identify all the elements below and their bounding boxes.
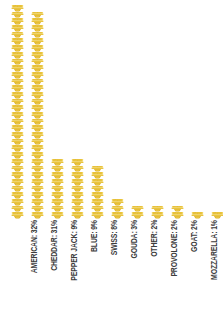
cheese-wheel-icon <box>11 206 24 213</box>
cheese-wheel-icon <box>91 199 104 206</box>
category-label-text: MOZZARELLA: 1% <box>204 220 223 280</box>
cheese-wheel-icon <box>11 152 24 159</box>
cheese-wheel-icon <box>171 212 184 219</box>
cheese-wheel-icon <box>91 212 104 219</box>
cheese-wheel-icon <box>31 12 44 19</box>
cheese-wheel-icon <box>31 59 44 66</box>
cheese-wheel-icon <box>111 212 124 219</box>
cheese-wheel-icon <box>51 199 64 206</box>
cheese-wheel-icon <box>211 212 224 219</box>
cheese-wheel-icon <box>171 206 184 213</box>
category-label-text: AMERICAN: 32% <box>24 220 44 273</box>
cheese-wheel-icon <box>11 18 24 25</box>
cheese-wheel-icon <box>11 166 24 173</box>
cheese-wheel-icon <box>11 159 24 166</box>
pictogram-column <box>167 206 187 219</box>
cheese-wheel-icon <box>31 166 44 173</box>
category-label-text: GOUDA: 3% <box>124 220 144 259</box>
pictogram-column <box>147 206 167 219</box>
pictogram-column <box>27 12 47 219</box>
cheese-wheel-icon <box>11 105 24 112</box>
category-label-pepper-jack: PEPPER JACK: 9% <box>64 219 84 320</box>
category-label-gouda: GOUDA: 3% <box>124 219 144 320</box>
cheese-wheel-icon <box>31 45 44 52</box>
cheese-wheel-icon <box>31 72 44 79</box>
cheese-wheel-icon <box>91 192 104 199</box>
cheese-wheel-icon <box>71 186 84 193</box>
cheese-wheel-icon <box>11 38 24 45</box>
cheese-wheel-icon <box>31 206 44 213</box>
category-label-american: AMERICAN: 32% <box>24 219 44 320</box>
pictogram-column <box>67 159 87 219</box>
cheese-wheel-icon <box>91 179 104 186</box>
pictogram-column <box>127 206 147 219</box>
cheese-wheel-icon <box>191 212 204 219</box>
cheese-wheel-icon <box>11 132 24 139</box>
cheese-wheel-icon <box>11 59 24 66</box>
cheese-wheel-icon <box>31 92 44 99</box>
category-axis-labels: AMERICAN: 32%CHEDDAR: 31%PEPPER JACK: 9%… <box>0 219 223 320</box>
cheese-wheel-icon <box>131 212 144 219</box>
cheese-wheel-icon <box>111 199 124 206</box>
cheese-wheel-icon <box>51 212 64 219</box>
cheese-wheel-icon <box>31 212 44 219</box>
cheese-wheel-icon <box>31 152 44 159</box>
cheese-wheel-icon <box>31 52 44 59</box>
cheese-wheel-icon <box>71 212 84 219</box>
cheese-wheel-icon <box>151 212 164 219</box>
cheese-wheel-icon <box>51 159 64 166</box>
cheese-wheel-icon <box>11 192 24 199</box>
pictogram-column <box>187 212 207 219</box>
category-label-text: CHEDDAR: 31% <box>44 220 64 271</box>
category-label-mozzarella: MOZZARELLA: 1% <box>204 219 223 320</box>
pictogram-column <box>47 159 67 219</box>
cheese-wheel-icon <box>11 12 24 19</box>
cheese-wheel-icon <box>51 172 64 179</box>
cheese-wheel-icon <box>11 125 24 132</box>
cheese-wheel-icon <box>51 166 64 173</box>
cheese-wheel-icon <box>31 112 44 119</box>
cheese-wheel-icon <box>131 206 144 213</box>
cheese-wheel-icon <box>31 199 44 206</box>
category-label-cheddar: CHEDDAR: 31% <box>44 219 64 320</box>
cheese-wheel-icon <box>11 52 24 59</box>
cheese-wheel-icon <box>11 212 24 219</box>
category-label-blue: BLUE: 9% <box>84 219 104 320</box>
cheese-wheel-icon <box>31 125 44 132</box>
cheese-wheel-icon <box>31 179 44 186</box>
cheese-wheel-icon <box>11 5 24 12</box>
cheese-wheel-icon <box>71 179 84 186</box>
pictogram-chart: AMERICAN: 32%CHEDDAR: 31%PEPPER JACK: 9%… <box>0 0 223 320</box>
cheese-wheel-icon <box>31 99 44 106</box>
cheese-wheel-icon <box>31 79 44 86</box>
cheese-wheel-icon <box>71 172 84 179</box>
category-label-goat: GOAT: 2% <box>184 219 204 320</box>
cheese-wheel-icon <box>31 119 44 126</box>
cheese-wheel-icon <box>31 65 44 72</box>
cheese-wheel-icon <box>31 172 44 179</box>
cheese-wheel-icon <box>31 25 44 32</box>
cheese-wheel-icon <box>91 186 104 193</box>
category-label-text: GOAT: 2% <box>184 220 204 252</box>
cheese-wheel-icon <box>91 166 104 173</box>
cheese-wheel-icon <box>31 18 44 25</box>
pictogram-column <box>7 5 27 219</box>
category-label-text: BLUE: 9% <box>84 220 104 252</box>
cheese-wheel-icon <box>11 145 24 152</box>
pictogram-column <box>87 166 107 220</box>
cheese-wheel-icon <box>151 206 164 213</box>
cheese-wheel-icon <box>71 159 84 166</box>
category-label-text: OTHER: 2% <box>144 220 164 257</box>
category-label-text: PEPPER JACK: 9% <box>64 220 84 281</box>
cheese-wheel-icon <box>51 206 64 213</box>
cheese-wheel-icon <box>51 179 64 186</box>
cheese-wheel-icon <box>11 99 24 106</box>
cheese-wheel-icon <box>11 186 24 193</box>
cheese-wheel-icon <box>31 159 44 166</box>
pictogram-column <box>207 212 223 219</box>
cheese-wheel-icon <box>11 139 24 146</box>
cheese-wheel-icon <box>11 119 24 126</box>
cheese-wheel-icon <box>111 206 124 213</box>
cheese-wheel-icon <box>11 32 24 39</box>
cheese-wheel-icon <box>11 199 24 206</box>
